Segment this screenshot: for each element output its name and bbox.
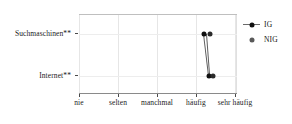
data-point-ig-suchmaschinen[interactable] — [201, 32, 206, 37]
gridline-x-haeufig — [196, 15, 197, 93]
x-tick-manchmal — [157, 94, 158, 97]
y-tick-internet — [75, 75, 78, 76]
y-tick-suchmaschinen — [75, 33, 78, 34]
y-axis-label-internet: Internet** — [39, 71, 71, 80]
legend-label-ig: IG — [264, 20, 272, 29]
y-axis-label-suchmaschinen: Suchmaschinen** — [15, 29, 71, 38]
x-axis-label-manchmal: manchmal — [141, 98, 173, 107]
panel-right-edge — [236, 15, 237, 93]
plot-area — [79, 14, 237, 94]
legend-item-nig[interactable]: NIG — [243, 32, 292, 47]
x-axis-label-nie: nie — [74, 98, 83, 107]
x-axis-label-haeufig: häufig — [186, 98, 206, 107]
gridline-y-suchmaschinen — [79, 34, 237, 35]
legend-label-nig: NIG — [264, 35, 278, 44]
gridline-x-manchmal — [157, 15, 158, 93]
chart-legend: IG NIG — [243, 17, 292, 47]
x-tick-nie — [79, 94, 80, 97]
x-axis-label-selten: selten — [109, 98, 127, 107]
gridline-x-nie — [79, 15, 80, 93]
legend-item-ig[interactable]: IG — [243, 17, 292, 32]
x-tick-selten — [118, 94, 119, 97]
chart-figure: Suchmaschinen** Internet** nie selten ma… — [0, 0, 292, 124]
data-point-nig-internet[interactable] — [210, 74, 215, 79]
x-tick-haeufig — [196, 94, 197, 97]
x-tick-sehr-haeufig — [235, 94, 236, 97]
legend-marker-ig-icon — [243, 19, 260, 30]
x-axis-label-sehr-haeufig: sehr häufig — [218, 98, 253, 107]
gridline-x-selten — [118, 15, 119, 93]
data-point-nig-suchmaschinen[interactable] — [207, 32, 212, 37]
gridline-x-sehr-haeufig — [235, 15, 236, 93]
legend-marker-nig-icon — [243, 34, 260, 45]
